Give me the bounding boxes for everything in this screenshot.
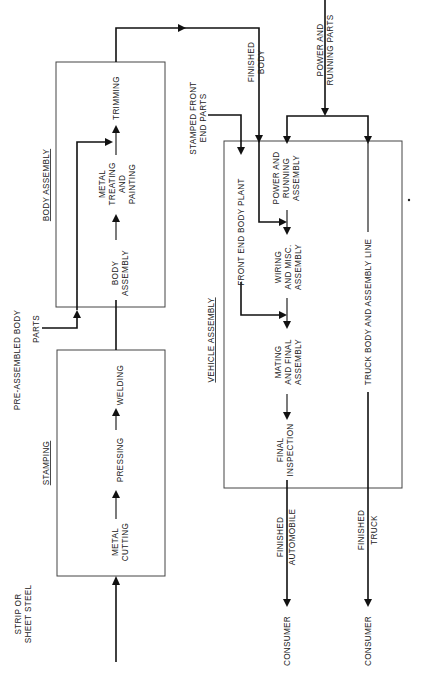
step-mating-2: AND FINAL	[284, 339, 293, 385]
step-mating-3: ASSEMBLY	[294, 339, 303, 385]
arrow-icon	[112, 576, 120, 585]
arrow-icon	[279, 311, 287, 319]
step-metal-treating-1: METAL	[98, 170, 107, 198]
arrow-icon	[283, 599, 291, 607]
finished-body-label-2: BODY	[257, 50, 266, 75]
step-power-running-1: POWER AND	[272, 152, 281, 205]
strip-steel-label-1: STRIP OR	[14, 594, 23, 635]
arrow-icon	[112, 214, 120, 222]
power-parts-label-2: RUNNING PARTS	[326, 14, 335, 85]
arrow-icon	[283, 412, 291, 420]
step-wiring-3: ASSEMBLY	[294, 244, 303, 290]
front-end-plant-line	[241, 282, 283, 315]
arrow-icon	[112, 408, 120, 416]
front-end-plant-label: FRONT END BODY PLANT	[237, 178, 246, 286]
manufacturing-flow-diagram: STAMPING METAL CUTTING PRESSING WELDING …	[0, 0, 421, 673]
strip-steel-label-2: SHEET STEEL	[24, 585, 33, 644]
pre-assembled-line	[42, 316, 77, 328]
arrow-icon	[105, 138, 113, 146]
step-metal-treating-3: AND	[118, 175, 127, 193]
finished-truck-label-1: FINISHED	[357, 510, 366, 551]
arrow-icon	[112, 125, 120, 133]
pre-assembled-to-trimming-line	[77, 142, 108, 310]
arrow-icon	[237, 147, 245, 155]
stamped-front-label-2: END PARTS	[199, 93, 208, 142]
step-metal-treating-4: PAINTING	[128, 164, 137, 204]
step-mating-1: MATING	[274, 345, 283, 378]
step-wiring-2: AND MISC.	[284, 244, 293, 289]
arrow-icon	[321, 108, 329, 116]
arrow-icon	[73, 310, 81, 318]
step-body-assembly-1: BODY	[111, 261, 120, 286]
step-final-inspection-1: FINAL	[276, 438, 285, 463]
stamped-front-label-1: STAMPED FRONT	[189, 81, 198, 154]
body-assembly-title: BODY ASSEMBLY	[42, 149, 51, 222]
consumer-label-automobile: CONSUMER	[283, 616, 292, 666]
arrow-icon	[283, 227, 291, 235]
arrow-icon	[364, 599, 372, 607]
pre-assembled-label-1: PRE-ASSEMBLED BODY	[13, 310, 22, 411]
finished-truck-label-2: TRUCK	[370, 515, 379, 545]
finished-body-label-1: FINISHED	[247, 42, 256, 83]
step-body-assembly-2: ASSEMBLY	[121, 250, 130, 296]
truck-line-label: TRUCK BODY AND ASSEMBLY LINE	[364, 238, 373, 385]
stamping-title: STAMPING	[42, 441, 51, 486]
arrow-icon	[279, 218, 287, 226]
arrow-icon	[255, 135, 263, 143]
diagram-svg: STAMPING METAL CUTTING PRESSING WELDING …	[0, 0, 421, 673]
step-metal-treating-2: TREATING	[108, 162, 117, 205]
step-trimming: TRIMMING	[112, 76, 121, 120]
step-final-inspection-2: INSPECTION	[286, 423, 295, 476]
finished-automobile-label-1: FINISHED	[276, 517, 285, 558]
vehicle-assembly-title: VEHICLE ASSEMBLY	[207, 297, 216, 382]
step-wiring-1: WIRING	[274, 251, 283, 283]
pre-assembled-label-2: PARTS	[32, 315, 41, 343]
arrow-icon	[112, 490, 120, 498]
step-power-running-2: RUNNING	[282, 158, 291, 198]
arrow-icon	[283, 136, 291, 144]
step-welding: WELDING	[116, 365, 125, 405]
consumer-label-truck: CONSUMER	[364, 616, 373, 666]
finished-automobile-label-2: AUTOMOBILE	[288, 509, 297, 566]
stray-dot	[408, 199, 410, 201]
step-metal-cutting-1: METAL	[111, 528, 120, 556]
step-metal-cutting-2: CUTTING	[121, 523, 130, 561]
arrow-icon	[283, 321, 291, 329]
power-parts-label-1: POWER AND	[316, 24, 325, 77]
arrow-icon	[178, 24, 186, 32]
step-power-running-3: ASSEMBLY	[292, 155, 301, 201]
step-pressing: PRESSING	[116, 438, 125, 483]
power-branch-line	[287, 116, 368, 141]
